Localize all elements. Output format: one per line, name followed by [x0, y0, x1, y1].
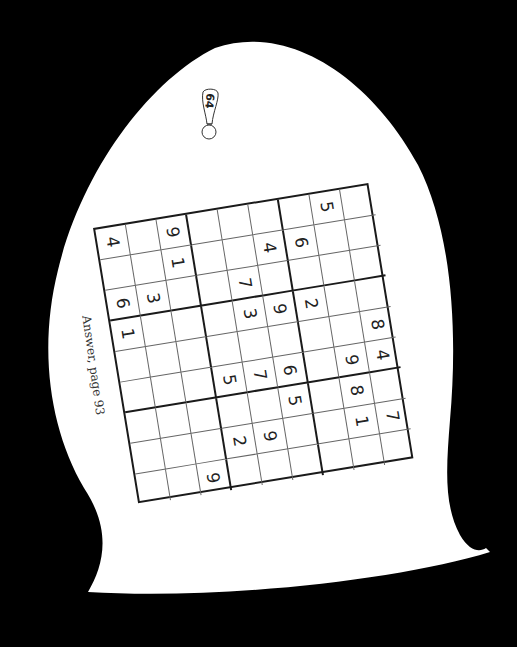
cell-digit: 7: [249, 368, 270, 382]
given-cell[interactable]: 4: [253, 230, 289, 266]
given-cell[interactable]: 6: [105, 286, 141, 322]
empty-cell[interactable]: [248, 200, 284, 236]
empty-cell[interactable]: [172, 306, 208, 342]
empty-cell[interactable]: [130, 439, 166, 475]
empty-cell[interactable]: [289, 256, 325, 292]
empty-cell[interactable]: [258, 449, 294, 485]
empty-cell[interactable]: [283, 414, 319, 450]
empty-cell[interactable]: [248, 388, 284, 424]
sudoku-puzzle: 49514663713928576945829179: [93, 183, 413, 503]
empty-cell[interactable]: [223, 235, 259, 271]
cell-digit: 9: [162, 225, 183, 239]
given-cell[interactable]: 9: [156, 215, 192, 251]
empty-cell[interactable]: [299, 317, 335, 353]
cell-digit: 7: [234, 276, 255, 290]
empty-cell[interactable]: [319, 251, 355, 287]
empty-cell[interactable]: [161, 434, 197, 470]
cell-digit: 4: [372, 347, 393, 361]
given-cell[interactable]: 9: [334, 343, 370, 379]
empty-cell[interactable]: [279, 195, 315, 231]
empty-cell[interactable]: [207, 332, 243, 368]
given-cell[interactable]: 8: [340, 373, 376, 409]
empty-cell[interactable]: [187, 210, 223, 246]
empty-cell[interactable]: [227, 454, 263, 490]
empty-cell[interactable]: [309, 378, 345, 414]
empty-cell[interactable]: [141, 311, 177, 347]
empty-cell[interactable]: [238, 327, 274, 363]
empty-cell[interactable]: [187, 398, 223, 434]
empty-cell[interactable]: [100, 255, 136, 291]
empty-cell[interactable]: [258, 261, 294, 297]
given-cell[interactable]: 9: [263, 291, 299, 327]
empty-cell[interactable]: [192, 240, 228, 276]
empty-cell[interactable]: [197, 271, 233, 307]
empty-cell[interactable]: [314, 220, 350, 256]
empty-cell[interactable]: [126, 220, 162, 256]
given-cell[interactable]: 4: [95, 225, 131, 261]
empty-cell[interactable]: [156, 403, 192, 439]
empty-cell[interactable]: [319, 439, 355, 475]
given-cell[interactable]: 6: [284, 225, 320, 261]
empty-cell[interactable]: [135, 469, 171, 505]
empty-cell[interactable]: [115, 347, 151, 383]
empty-cell[interactable]: [192, 429, 228, 465]
empty-cell[interactable]: [120, 378, 156, 414]
empty-cell[interactable]: [151, 373, 187, 409]
cell-digit: 1: [351, 414, 372, 428]
empty-cell[interactable]: [370, 368, 406, 404]
given-cell[interactable]: 4: [365, 338, 401, 374]
given-cell[interactable]: 6: [273, 353, 309, 389]
empty-cell[interactable]: [202, 301, 238, 337]
empty-cell[interactable]: [350, 246, 386, 282]
given-cell[interactable]: 5: [309, 190, 345, 226]
empty-cell[interactable]: [217, 393, 253, 429]
cell-digit: 4: [259, 241, 280, 255]
empty-cell[interactable]: [340, 185, 376, 221]
cell-digit: 1: [167, 256, 188, 270]
given-cell[interactable]: 9: [197, 459, 233, 495]
given-cell[interactable]: 7: [375, 399, 411, 435]
cell-digit: 5: [219, 373, 240, 387]
empty-cell[interactable]: [146, 342, 182, 378]
given-cell[interactable]: 2: [222, 424, 258, 460]
empty-cell[interactable]: [380, 429, 416, 465]
cell-digit: 9: [203, 470, 224, 484]
empty-cell[interactable]: [166, 464, 202, 500]
cell-digit: 1: [117, 327, 138, 341]
empty-cell[interactable]: [131, 250, 167, 286]
empty-cell[interactable]: [345, 215, 381, 251]
cell-digit: 2: [300, 297, 321, 311]
given-cell[interactable]: 5: [212, 363, 248, 399]
given-cell[interactable]: 3: [233, 296, 269, 332]
empty-cell[interactable]: [329, 312, 365, 348]
given-cell[interactable]: 9: [253, 419, 289, 455]
cell-digit: 3: [142, 291, 163, 305]
given-cell[interactable]: 7: [243, 358, 279, 394]
cell-digit: 8: [346, 384, 367, 398]
given-cell[interactable]: 1: [110, 316, 146, 352]
cell-digit: 5: [284, 394, 305, 408]
given-cell[interactable]: 7: [228, 266, 264, 302]
empty-cell[interactable]: [218, 205, 254, 241]
cell-digit: 6: [279, 363, 300, 377]
cell-digit: 9: [269, 302, 290, 316]
empty-cell[interactable]: [304, 348, 340, 384]
given-cell[interactable]: 1: [345, 404, 381, 440]
empty-cell[interactable]: [182, 368, 218, 404]
given-cell[interactable]: 1: [161, 245, 197, 281]
empty-cell[interactable]: [125, 408, 161, 444]
sudoku-grid: 49514663713928576945829179: [93, 183, 413, 503]
given-cell[interactable]: 3: [136, 281, 172, 317]
empty-cell[interactable]: [167, 276, 203, 312]
empty-cell[interactable]: [314, 409, 350, 445]
empty-cell[interactable]: [288, 444, 324, 480]
empty-cell[interactable]: [350, 434, 386, 470]
given-cell[interactable]: 2: [294, 286, 330, 322]
cell-digit: 9: [341, 352, 362, 366]
given-cell[interactable]: 5: [278, 383, 314, 419]
empty-cell[interactable]: [355, 276, 391, 312]
empty-cell[interactable]: [324, 281, 360, 317]
empty-cell[interactable]: [177, 337, 213, 373]
given-cell[interactable]: 8: [360, 307, 396, 343]
empty-cell[interactable]: [268, 322, 304, 358]
